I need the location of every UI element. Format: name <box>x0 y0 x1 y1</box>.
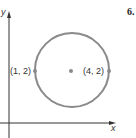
diagram-canvas: y x (1, 2) (4, 2) 6. <box>0 0 136 138</box>
point-right <box>107 69 111 73</box>
point-label-left: (1, 2) <box>10 66 31 76</box>
y-axis-arrow-icon <box>7 11 11 18</box>
problem-number: 6. <box>127 6 135 17</box>
point-label-right: (4, 2) <box>83 66 104 76</box>
point-left <box>33 69 37 73</box>
x-axis-label: x <box>110 123 116 133</box>
center-point <box>69 69 73 73</box>
y-axis-label: y <box>0 7 6 17</box>
x-axis <box>0 121 116 125</box>
